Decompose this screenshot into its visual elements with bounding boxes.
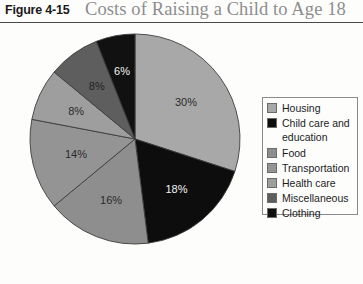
legend-item-label: Child care and education: [282, 116, 350, 144]
legend-swatch-health-care: [267, 178, 277, 188]
pie-slice-label: 16%: [100, 194, 122, 206]
header-divider: [0, 22, 363, 23]
figure-panel: Figure 4-15 Costs of Raising a Child to …: [0, 0, 363, 284]
legend-item[interactable]: Health care: [267, 176, 357, 191]
chart-legend: HousingChild care and educationFoodTrans…: [262, 97, 358, 215]
legend-item[interactable]: Miscellaneous: [267, 191, 357, 206]
legend-item-label: Miscellaneous: [282, 191, 349, 205]
legend-item-label: Transportation: [282, 161, 349, 175]
pie-slice-group: [30, 34, 240, 244]
legend-swatch-miscellaneous: [267, 193, 277, 203]
legend-swatch-food: [267, 148, 277, 158]
figure-title: Costs of Raising a Child to Age 18: [85, 0, 346, 20]
pie-slice-label: 18%: [165, 183, 187, 195]
figure-header: Figure 4-15 Costs of Raising a Child to …: [0, 0, 363, 24]
legend-item[interactable]: Housing: [267, 101, 357, 116]
pie-slice-label: 14%: [65, 148, 87, 160]
legend-item[interactable]: Transportation: [267, 161, 357, 176]
pie-chart-svg: 30%18%16%14%8%8%6%: [29, 33, 241, 245]
legend-item-label: Housing: [282, 101, 321, 115]
legend-swatch-transportation: [267, 163, 277, 173]
pie-chart: 30%18%16%14%8%8%6%: [29, 33, 241, 245]
legend-item-label: Food: [282, 146, 306, 160]
figure-number: Figure 4-15: [5, 3, 70, 17]
legend-item[interactable]: Food: [267, 146, 357, 161]
legend-swatch-clothing: [267, 208, 277, 218]
pie-slice-label: 30%: [175, 96, 197, 108]
legend-item-label: Clothing: [282, 206, 321, 220]
legend-item[interactable]: Clothing: [267, 206, 357, 221]
pie-slice-label: 8%: [68, 105, 84, 117]
legend-item-label: Health care: [282, 176, 336, 190]
pie-slice-label: 6%: [114, 65, 130, 77]
pie-slice-label: 8%: [89, 80, 105, 92]
legend-swatch-housing: [267, 103, 277, 113]
legend-swatch-child-care-and-education: [267, 118, 277, 128]
legend-item[interactable]: Child care and education: [267, 116, 357, 146]
